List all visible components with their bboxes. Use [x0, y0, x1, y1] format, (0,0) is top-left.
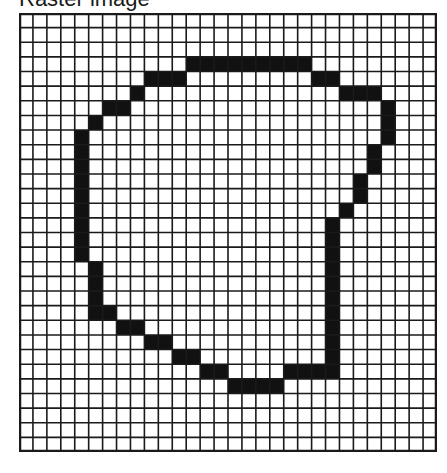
filled-pixel [326, 350, 340, 365]
filled-pixel [158, 335, 172, 350]
filled-pixel [270, 57, 284, 72]
filled-pixel [256, 379, 270, 394]
filled-pixel [75, 247, 89, 262]
filled-pixel [117, 101, 131, 116]
filled-pixel [242, 57, 256, 72]
filled-pixel [339, 203, 353, 218]
filled-pixel [75, 130, 89, 145]
filled-pixel [130, 86, 144, 101]
filled-pixel [214, 57, 228, 72]
filled-pixel [242, 379, 256, 394]
filled-pixel [256, 57, 270, 72]
filled-pixel [298, 364, 312, 379]
filled-pixel [326, 320, 340, 335]
filled-pixel [381, 115, 395, 130]
filled-pixel [103, 306, 117, 321]
filled-pixel [228, 57, 242, 72]
filled-pixel [130, 320, 144, 335]
filled-pixel [326, 72, 340, 87]
filled-pixel [228, 379, 242, 394]
filled-pixel [214, 364, 228, 379]
filled-pixel [381, 101, 395, 116]
filled-pixel [144, 72, 158, 87]
filled-pixel [89, 291, 103, 306]
filled-pixel [353, 174, 367, 189]
filled-pixel [284, 57, 298, 72]
filled-pixel [381, 130, 395, 145]
raster-grid-canvas [19, 13, 437, 452]
filled-pixel [367, 159, 381, 174]
filled-pixel [298, 57, 312, 72]
filled-pixel [89, 262, 103, 277]
filled-pixel [158, 72, 172, 87]
filled-pixel [75, 145, 89, 160]
filled-pixel [172, 350, 186, 365]
filled-pixel [339, 86, 353, 101]
filled-pixel [186, 350, 200, 365]
filled-pixel [270, 379, 284, 394]
filled-pixel [326, 247, 340, 262]
filled-pixel [353, 86, 367, 101]
filled-pixel [326, 262, 340, 277]
filled-pixel [75, 174, 89, 189]
filled-pixel [353, 189, 367, 204]
filled-pixel [312, 72, 326, 87]
filled-pixel [367, 145, 381, 160]
filled-pixel [89, 276, 103, 291]
filled-pixel [103, 101, 117, 116]
filled-pixel [200, 364, 214, 379]
filled-pixel [326, 218, 340, 233]
filled-pixel [75, 189, 89, 204]
filled-pixel [117, 320, 131, 335]
raster-grid [19, 13, 437, 452]
filled-pixel [200, 57, 214, 72]
filled-pixel [326, 364, 340, 379]
filled-pixel [367, 86, 381, 101]
diagram-title: Raster image [19, 0, 150, 10]
filled-pixel [144, 335, 158, 350]
filled-pixel [75, 203, 89, 218]
filled-pixel [89, 306, 103, 321]
filled-pixel [75, 159, 89, 174]
filled-pixel [326, 276, 340, 291]
filled-pixel [172, 72, 186, 87]
filled-pixel [312, 364, 326, 379]
filled-pixel [284, 364, 298, 379]
filled-pixel [326, 233, 340, 248]
filled-pixel [326, 335, 340, 350]
filled-pixel [75, 233, 89, 248]
filled-pixel [186, 57, 200, 72]
filled-pixel [89, 115, 103, 130]
filled-pixel [75, 218, 89, 233]
filled-pixel [326, 291, 340, 306]
filled-pixel [326, 306, 340, 321]
